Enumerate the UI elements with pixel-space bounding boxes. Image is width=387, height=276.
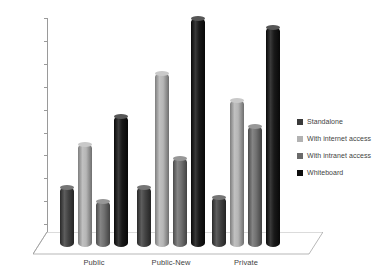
bar-body	[266, 27, 280, 247]
bar-cap	[78, 142, 92, 147]
bar[interactable]	[266, 27, 280, 247]
bar-groups	[47, 18, 290, 247]
bar-body	[96, 201, 110, 247]
legend-swatch-icon	[297, 136, 303, 142]
bar[interactable]	[96, 201, 110, 247]
bar[interactable]	[230, 100, 244, 247]
bar[interactable]	[155, 73, 169, 247]
bar-body	[78, 144, 92, 247]
bar-cap	[191, 16, 205, 21]
bar-cap	[155, 71, 169, 76]
legend-item[interactable]: Standalone	[297, 113, 383, 130]
legend-swatch-icon	[297, 119, 303, 125]
x-axis-label: Private	[201, 258, 291, 267]
chart-legend: StandaloneWith internet accessWith intra…	[297, 113, 383, 181]
legend-swatch-icon	[297, 170, 303, 176]
bar[interactable]	[114, 116, 128, 247]
bar-body	[137, 187, 151, 247]
bar-group	[60, 18, 132, 247]
bar-body	[191, 18, 205, 247]
bar[interactable]	[248, 126, 262, 247]
bar[interactable]	[137, 187, 151, 247]
legend-label: Standalone	[307, 118, 343, 125]
bar[interactable]	[212, 197, 226, 247]
bar-body	[230, 100, 244, 247]
bar-body	[248, 126, 262, 247]
bar-cap	[173, 156, 187, 161]
bar[interactable]	[191, 18, 205, 247]
bar-cap	[248, 124, 262, 129]
bar[interactable]	[78, 144, 92, 247]
bar-body	[114, 116, 128, 247]
bar-chart: Percentage 0102030405060708090100 Public…	[0, 0, 387, 276]
legend-label: Whiteboard	[307, 169, 343, 176]
legend-item[interactable]: With internet access	[297, 130, 383, 147]
legend-label: With internet access	[307, 135, 371, 142]
bar-group	[212, 18, 284, 247]
bar-body	[212, 197, 226, 247]
bar-body	[155, 73, 169, 247]
bar-body	[60, 187, 74, 247]
bar[interactable]	[173, 158, 187, 247]
bar-cap	[212, 195, 226, 200]
legend-item[interactable]: Whiteboard	[297, 164, 383, 181]
bar[interactable]	[60, 187, 74, 247]
bar-group	[137, 18, 209, 247]
bar-body	[173, 158, 187, 247]
legend-item[interactable]: With intranet access	[297, 147, 383, 164]
legend-label: With intranet access	[307, 152, 371, 159]
legend-swatch-icon	[297, 153, 303, 159]
